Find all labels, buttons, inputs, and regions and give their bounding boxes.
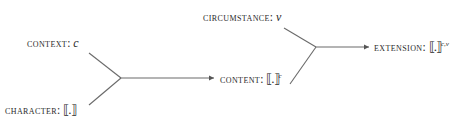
composition-diagram: CONTEXT: c CHARACTER: ⟦.⟧ CONTENT: ⟦.⟧c … bbox=[0, 0, 467, 122]
extension-superscript: c,v bbox=[441, 40, 449, 48]
character-node: CHARACTER: ⟦.⟧ bbox=[5, 104, 76, 117]
circumstance-edge bbox=[284, 28, 316, 47]
context-label: CONTEXT: bbox=[27, 37, 71, 49]
fork-1 bbox=[89, 53, 214, 105]
content-node: CONTENT: ⟦.⟧c bbox=[220, 73, 282, 86]
circumstance-value: v bbox=[276, 10, 281, 24]
character-label: CHARACTER: bbox=[5, 104, 61, 116]
content-value: ⟦.⟧ bbox=[266, 71, 278, 86]
character-value: ⟦.⟧ bbox=[63, 102, 75, 117]
fork-2 bbox=[284, 28, 369, 84]
content-superscript: c bbox=[279, 72, 282, 80]
character-edge bbox=[89, 78, 121, 105]
content-edge bbox=[290, 47, 316, 84]
content-label: CONTENT: bbox=[220, 73, 264, 85]
context-node: CONTEXT: c bbox=[27, 37, 79, 50]
extension-label: EXTENSION: bbox=[374, 41, 426, 53]
extension-node: EXTENSION: ⟦.⟧c,v bbox=[374, 41, 449, 54]
context-edge bbox=[89, 53, 121, 78]
extension-value: ⟦.⟧ bbox=[429, 39, 441, 54]
context-value: c bbox=[73, 36, 78, 50]
circumstance-node: CIRCUMSTANCE: v bbox=[203, 11, 281, 24]
circumstance-label: CIRCUMSTANCE: bbox=[203, 11, 273, 23]
